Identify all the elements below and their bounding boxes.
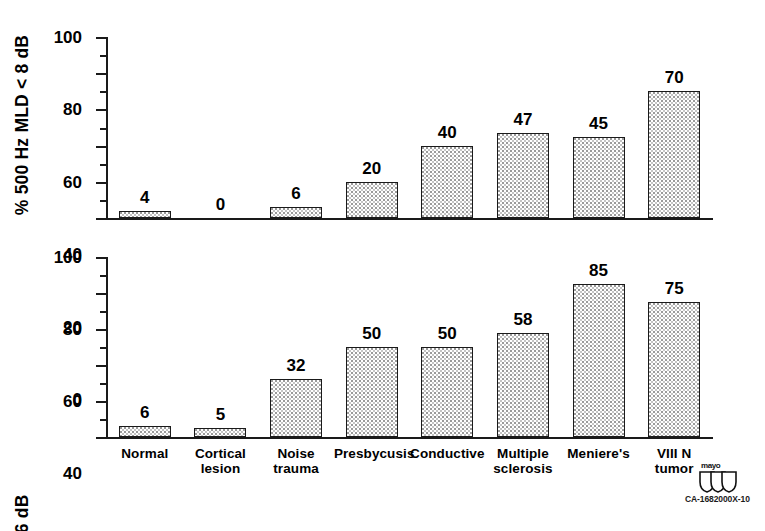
bar bbox=[194, 428, 246, 437]
bar-value-label: 32 bbox=[287, 357, 306, 374]
bar bbox=[119, 211, 171, 218]
x-axis-category-label-line: Noise bbox=[258, 446, 334, 461]
bar-slot: 50 bbox=[346, 257, 398, 437]
y-tick-major: 60 bbox=[96, 329, 107, 331]
bar-value-label: 6 bbox=[291, 185, 300, 202]
bar-value-label: 4 bbox=[140, 189, 149, 206]
x-axis-category-label: Meniere's bbox=[561, 446, 637, 461]
y-tick-major: 80 bbox=[96, 73, 107, 75]
y-tick-major: 100 bbox=[96, 257, 107, 259]
y-tick-minor bbox=[100, 128, 107, 130]
bar-value-label: 6 bbox=[140, 404, 149, 421]
bar-slot: 45 bbox=[573, 37, 625, 218]
y-tick-major: 20 bbox=[96, 182, 107, 184]
y-tick-label: 80 bbox=[63, 101, 82, 118]
y-axis-title-bottom: % speech MLD < 6 dB bbox=[12, 472, 33, 531]
chart-panel-top: % 500 Hz MLD < 8 dB 020406080100 4062040… bbox=[0, 0, 765, 250]
y-tick-major: 80 bbox=[96, 293, 107, 295]
x-axis-category-label-line: Presbycusis bbox=[334, 446, 410, 461]
y-tick-major: 20 bbox=[96, 401, 107, 403]
bar-slot: 70 bbox=[648, 37, 700, 218]
y-tick-label: 80 bbox=[63, 321, 82, 338]
y-tick-major: 0 bbox=[96, 437, 107, 439]
bar bbox=[421, 347, 473, 437]
mayo-wordmark-text: mayo bbox=[701, 461, 720, 470]
bar-slot: 32 bbox=[270, 257, 322, 437]
x-axis-category-label-line: Cortical bbox=[183, 446, 259, 461]
bar-value-label: 47 bbox=[513, 111, 532, 128]
y-tick-minor bbox=[100, 311, 107, 313]
bar bbox=[346, 347, 398, 437]
bar-value-label: 58 bbox=[513, 311, 532, 328]
y-tick-minor bbox=[100, 419, 107, 421]
bar bbox=[119, 426, 171, 437]
x-axis-category-label: Conductive bbox=[410, 446, 486, 461]
bar-slot: 85 bbox=[573, 257, 625, 437]
bar bbox=[346, 182, 398, 218]
x-axis-category-label-line: Meniere's bbox=[561, 446, 637, 461]
x-axis-category-label: Normal bbox=[107, 446, 183, 461]
bar-slot: 75 bbox=[648, 257, 700, 437]
bar bbox=[270, 207, 322, 218]
x-axis-baseline-top bbox=[106, 218, 713, 220]
y-tick-major: 40 bbox=[96, 146, 107, 148]
y-tick-label: 60 bbox=[63, 393, 82, 410]
y-tick-minor bbox=[100, 91, 107, 93]
x-axis-baseline-bottom bbox=[106, 437, 713, 439]
bar bbox=[648, 302, 700, 437]
x-axis-category-labels: NormalCorticallesionNoisetraumaPresbycus… bbox=[107, 446, 712, 492]
x-axis-category-label: Multiplesclerosis bbox=[485, 446, 561, 476]
bar-group-top: 4062040474570 bbox=[107, 37, 712, 218]
x-axis-category-label-line: Normal bbox=[107, 446, 183, 461]
bar-slot: 50 bbox=[421, 257, 473, 437]
y-tick-major: 100 bbox=[96, 37, 107, 39]
y-tick-label: 40 bbox=[63, 465, 82, 482]
x-axis-category-label-line: lesion bbox=[183, 461, 259, 476]
bar-slot: 6 bbox=[119, 257, 171, 437]
bar-value-label: 75 bbox=[665, 280, 684, 297]
y-tick-major: 40 bbox=[96, 365, 107, 367]
x-axis-category-label-line: Multiple bbox=[485, 446, 561, 461]
bar-slot: 20 bbox=[346, 37, 398, 218]
bar-value-label: 5 bbox=[216, 406, 225, 423]
y-tick-minor bbox=[100, 275, 107, 277]
bar-slot: 0 bbox=[194, 37, 246, 218]
x-axis-category-label: Noisetrauma bbox=[258, 446, 334, 476]
y-tick-minor bbox=[100, 383, 107, 385]
bar bbox=[497, 133, 549, 218]
bar bbox=[573, 284, 625, 437]
x-axis-category-label-line: Conductive bbox=[410, 446, 486, 461]
y-tick-label: 60 bbox=[63, 173, 82, 190]
figure-id-caption: CA-1682000X-10 bbox=[685, 494, 750, 504]
bar bbox=[270, 379, 322, 437]
bar-value-label: 45 bbox=[589, 115, 608, 132]
y-tick-major: 60 bbox=[96, 109, 107, 111]
y-tick-minor bbox=[100, 200, 107, 202]
x-axis-category-label: Corticallesion bbox=[183, 446, 259, 476]
y-tick-label: 100 bbox=[54, 249, 82, 266]
bar-slot: 5 bbox=[194, 257, 246, 437]
plot-area-bottom: 020406080100 65325050588575 bbox=[107, 257, 712, 437]
bar-slot: 58 bbox=[497, 257, 549, 437]
bar-slot: 40 bbox=[421, 37, 473, 218]
y-tick-label: 100 bbox=[54, 29, 82, 46]
y-tick-minor bbox=[100, 55, 107, 57]
x-axis-category-label: Presbycusis bbox=[334, 446, 410, 461]
mayo-three-shields-icon bbox=[699, 471, 743, 493]
y-tick-major: 0 bbox=[96, 218, 107, 220]
y-tick-minor bbox=[100, 347, 107, 349]
bar-value-label: 0 bbox=[216, 196, 225, 213]
x-axis-category-label-line: trauma bbox=[258, 461, 334, 476]
plot-area-top: 020406080100 4062040474570 bbox=[107, 37, 712, 218]
bar-slot: 4 bbox=[119, 37, 171, 218]
bar bbox=[497, 333, 549, 437]
bar-value-label: 20 bbox=[362, 160, 381, 177]
x-axis-category-label-line: sclerosis bbox=[485, 461, 561, 476]
bar-value-label: 70 bbox=[665, 69, 684, 86]
x-axis-category-label-line: VIII N bbox=[636, 446, 712, 461]
bar bbox=[421, 146, 473, 218]
mayo-clinic-logo: mayo bbox=[697, 461, 745, 495]
figure-root: % 500 Hz MLD < 8 dB 020406080100 4062040… bbox=[0, 0, 765, 531]
bar-value-label: 40 bbox=[438, 124, 457, 141]
bar-value-label: 50 bbox=[362, 325, 381, 342]
